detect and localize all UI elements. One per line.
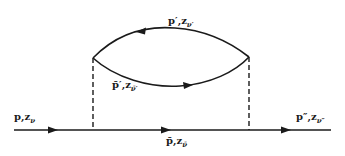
arrow-outgoing-icon [281, 127, 291, 134]
label-incoming-momentum: p [14, 111, 21, 122]
label-loop-upper: p′,zν′ [168, 16, 194, 28]
label-incoming-sub: ν [30, 116, 35, 125]
label-loop-lower: p̄′,zν̄′ [112, 80, 138, 92]
label-loop-upper-momentum: p′ [168, 15, 178, 26]
label-outgoing-sub: ν″ [317, 116, 325, 125]
label-intermediate: p̄,zν̄ [166, 136, 187, 148]
label-outgoing-momentum: p″ [296, 111, 307, 122]
label-intermediate-sub: ν̄ [182, 140, 187, 149]
label-incoming: p,zν [14, 112, 35, 124]
label-intermediate-momentum: p̄ [166, 135, 173, 146]
arrow-incoming-icon [48, 127, 58, 134]
label-outgoing: p″,zν″ [296, 112, 325, 124]
label-loop-upper-sub: ν′ [187, 20, 194, 29]
label-loop-lower-sub: ν̄′ [131, 84, 138, 93]
loop-upper-arc [93, 28, 249, 58]
arrow-loop-lower-icon [183, 82, 193, 89]
label-loop-lower-momentum: p̄′ [112, 79, 122, 90]
arrow-intermediate-icon [161, 127, 171, 134]
